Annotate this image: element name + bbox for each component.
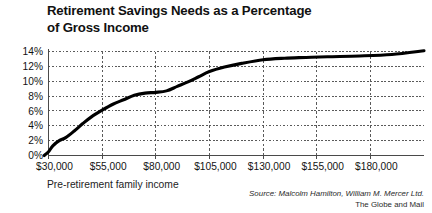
svg-text:$180,000: $180,000 [355, 161, 398, 172]
svg-text:$55,000: $55,000 [90, 161, 127, 172]
svg-text:0%: 0% [28, 150, 43, 161]
x-tick-labels: $30,000$55,000$80,000$105,000$130,000$15… [36, 161, 398, 172]
svg-text:$155,000: $155,000 [301, 161, 344, 172]
svg-text:14%: 14% [23, 46, 43, 57]
svg-text:$80,000: $80,000 [143, 161, 180, 172]
source-note: Source: Malcolm Hamilton, William M. Mer… [249, 189, 424, 210]
svg-text:12%: 12% [23, 61, 43, 72]
svg-text:$130,000: $130,000 [248, 161, 291, 172]
svg-text:8%: 8% [28, 91, 43, 102]
svg-text:2%: 2% [28, 135, 43, 146]
source-line-2: The Globe and Mail [249, 200, 424, 211]
svg-text:6%: 6% [28, 106, 43, 117]
x-gridlines [102, 52, 370, 156]
svg-text:$30,000: $30,000 [36, 161, 73, 172]
chart-figure: Retirement Savings Needs as a Percentage… [0, 0, 432, 213]
svg-text:4%: 4% [28, 120, 43, 131]
x-axis-caption: Pre-retirement family income [47, 179, 179, 190]
y-tick-labels: 0%2%4%6%8%10%12%14% [23, 46, 43, 161]
source-line-1: Source: Malcolm Hamilton, William M. Mer… [249, 189, 424, 200]
svg-text:10%: 10% [23, 76, 43, 87]
svg-text:$105,000: $105,000 [194, 161, 237, 172]
